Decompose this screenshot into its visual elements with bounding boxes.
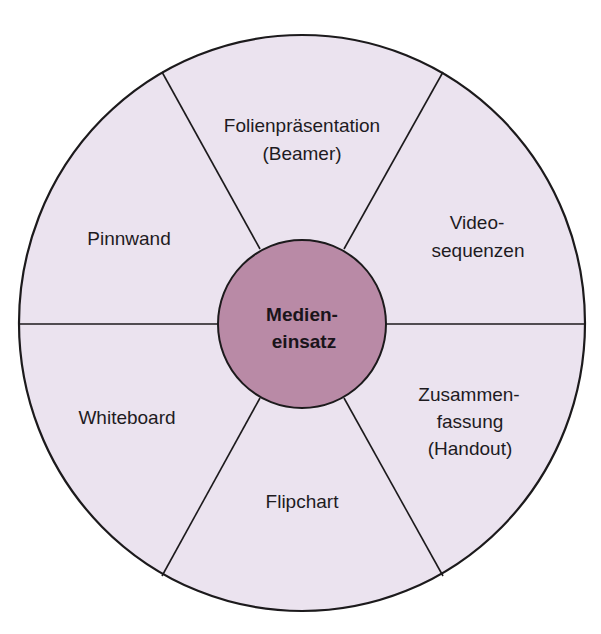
segment-flipchart: Flipchart <box>266 491 340 512</box>
segment-label-line: Folienpräsentation <box>224 115 380 136</box>
segment-label-line: Pinnwand <box>87 228 170 249</box>
segment-label-line: (Handout) <box>428 438 513 459</box>
segment-label-line: (Beamer) <box>262 143 341 164</box>
segment-label-line: Zusammen- <box>418 384 519 405</box>
segment-label-line: fassung <box>437 411 504 432</box>
segment-whiteboard: Whiteboard <box>78 407 175 428</box>
media-wheel-diagram: Medien- einsatz Folienpräsentation (Beam… <box>0 0 601 634</box>
center-label-line2: einsatz <box>272 331 336 352</box>
segment-label-line: Whiteboard <box>78 407 175 428</box>
segment-pinnwand: Pinnwand <box>87 228 170 249</box>
center-label-line1: Medien- <box>266 304 338 325</box>
segment-label-line: Flipchart <box>266 491 340 512</box>
segment-label-line: Video- <box>450 212 505 233</box>
segment-label-line: sequenzen <box>432 240 525 261</box>
